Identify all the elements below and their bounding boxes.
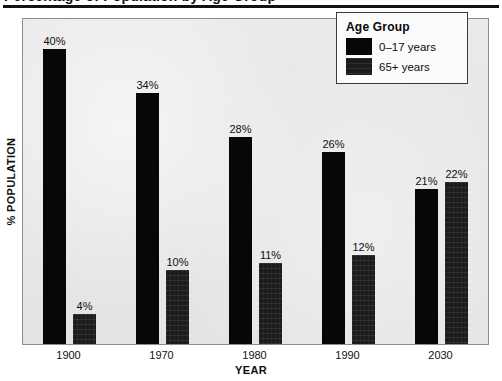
x-tick-label-1980: 1980 [242,349,266,361]
y-axis-title: % POPULATION [2,18,20,345]
x-axis-title: YEAR [0,364,502,376]
bar-1990-65-plus-years[interactable]: 12% [352,255,375,344]
bar-1970-0-17-years[interactable]: 34% [136,93,159,344]
bar-1900-65-plus-years[interactable]: 4% [73,314,96,344]
bar-1900-0-17-years[interactable]: 40% [43,49,66,344]
legend-title: Age Group [346,20,458,34]
legend-item-0-17-years: 0–17 years [346,38,458,55]
x-tick-label-1990: 1990 [335,349,359,361]
title-divider-rule [3,5,499,8]
bar-group-1980: 28%11% [229,19,282,344]
bar-1980-0-17-years[interactable]: 28% [229,137,252,344]
bar-value-label-1970-0-17-years: 34% [136,79,158,91]
legend-label-0-17-years: 0–17 years [379,41,436,53]
bar-value-label-1900-65-plus-years: 4% [77,300,93,312]
bar-value-label-2030-0-17-years: 21% [415,175,437,187]
legend-item-65-plus-years: 65+ years [346,58,458,75]
bar-1980-65-plus-years[interactable]: 11% [259,263,282,344]
bar-value-label-1970-65-plus-years: 10% [166,256,188,268]
bar-value-label-1900-0-17-years: 40% [43,35,65,47]
x-tick-label-2030: 2030 [428,349,452,361]
bar-1990-0-17-years[interactable]: 26% [322,152,345,344]
x-tick-label-1900: 1900 [56,349,80,361]
bar-2030-0-17-years[interactable]: 21% [415,189,438,344]
legend-swatch-icon-0-17-years [346,38,372,55]
chart-title-clipped: Percentage of Population by Age Group [4,0,276,4]
legend: Age Group 0–17 years 65+ years [336,12,468,84]
bar-value-label-1980-0-17-years: 28% [229,123,251,135]
bar-1970-65-plus-years[interactable]: 10% [166,270,189,344]
x-tick-label-1970: 1970 [149,349,173,361]
bar-group-1970: 34%10% [136,19,189,344]
bar-2030-65-plus-years[interactable]: 22% [445,182,468,345]
bar-value-label-1990-0-17-years: 26% [322,138,344,150]
legend-swatch-icon-65-plus-years [346,58,372,75]
legend-label-65-plus-years: 65+ years [379,61,430,73]
bar-group-1900: 40%4% [43,19,96,344]
bar-value-label-2030-65-plus-years: 22% [445,168,467,180]
bar-value-label-1990-65-plus-years: 12% [352,241,374,253]
bar-value-label-1980-65-plus-years: 11% [260,249,281,261]
